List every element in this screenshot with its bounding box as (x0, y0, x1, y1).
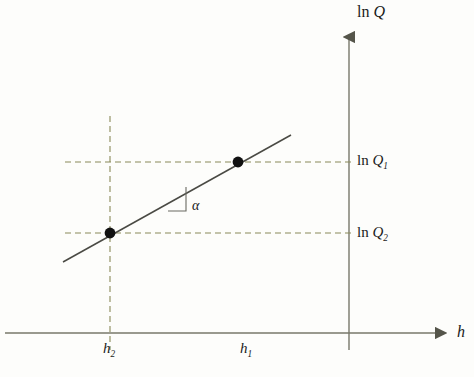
y-tick-label-lnq1: ln Q1 (357, 153, 388, 171)
plot-canvas (0, 0, 474, 377)
lnq1-ln: ln (357, 152, 369, 168)
y-axis-title-var: Q (373, 3, 385, 20)
slope-angle-label: α (192, 199, 199, 213)
lnq2-var: Q (372, 224, 383, 240)
lnq1-var: Q (372, 152, 383, 168)
y-axis-title: ln Q (357, 4, 385, 20)
data-point-2 (105, 228, 116, 239)
h2-subscript: 2 (111, 349, 116, 359)
figure-container: ln Q ln Q1 ln Q2 h h2 h1 α (0, 0, 474, 377)
lnq2-subscript: 2 (383, 233, 388, 243)
data-point-1 (233, 157, 244, 168)
h1-subscript: 1 (248, 349, 253, 359)
h2-var: h (103, 340, 111, 356)
y-axis-title-ln: ln (357, 3, 369, 20)
x-tick-label-h1: h1 (240, 341, 252, 359)
lnq1-subscript: 1 (383, 161, 388, 171)
data-line (63, 135, 291, 262)
h1-var: h (240, 340, 248, 356)
lnq2-ln: ln (357, 224, 369, 240)
x-tick-label-h2: h2 (103, 341, 115, 359)
x-axis-title: h (457, 324, 465, 340)
y-tick-label-lnq2: ln Q2 (357, 225, 388, 243)
